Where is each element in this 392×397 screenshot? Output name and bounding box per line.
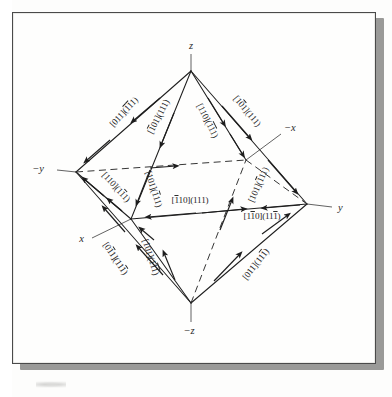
axis-line-neg-y: [57, 170, 76, 172]
neg-z-axis-label: −z: [183, 325, 194, 336]
arrow-x-y-a: [148, 213, 196, 217]
arrow-negz-x-a: [164, 253, 175, 280]
arrow-z-negy-b: [86, 140, 110, 161]
axis-labels-group: z −z y −y x −x: [32, 40, 343, 336]
neg-y-axis-label: −y: [32, 163, 44, 174]
slip-label-10: [011](111): [101, 240, 130, 276]
arrow-z-negx-b: [230, 134, 243, 155]
slip-label-5: [110](111): [100, 170, 133, 204]
slip-label-8: [101](111): [246, 166, 270, 204]
slip-label-12: [011](111): [240, 246, 271, 281]
y-axis-label: y: [337, 202, 343, 213]
arrow-x-y-c: [264, 205, 300, 208]
figure-root: z −z y −y x −x [011](111)[101](111)[110]…: [0, 0, 392, 397]
axis-line-y: [307, 204, 332, 207]
slip-label-1: [011](111): [108, 95, 141, 129]
slip-label-7: [110](111): [172, 195, 209, 205]
arrow-z-y-b: [268, 160, 296, 192]
axis-lines-group: [57, 54, 332, 322]
x-axis-label: x: [78, 233, 84, 244]
axis-line-neg-x: [246, 134, 281, 160]
octahedron-diagram: z −z y −y x −x [011](111)[101](111)[110]…: [0, 0, 392, 397]
arrow-negy-x-b: [109, 200, 122, 211]
slip-system-labels-group: [011](111)[101](111)[110](111)[101](111)…: [100, 94, 281, 282]
arrow-x-y-b: [202, 209, 244, 213]
edge-negz-to-negx-hidden: [191, 160, 246, 303]
neg-x-axis-label: −x: [284, 122, 296, 133]
arrow-negz-y-a: [214, 254, 240, 281]
arrow-negy-x-a: [84, 179, 104, 196]
z-axis-label: z: [188, 40, 193, 51]
slip-label-3: [110](111): [195, 102, 221, 140]
arrow-negz-negx-a: [220, 200, 232, 230]
edge-z-to-negy: [76, 71, 191, 172]
slip-label-9: [110](111): [244, 211, 281, 221]
edge-negz-to-x: [131, 219, 191, 303]
slip-label-6: [101](111): [143, 170, 164, 209]
edge-negy-to-negx-hidden: [76, 160, 246, 172]
